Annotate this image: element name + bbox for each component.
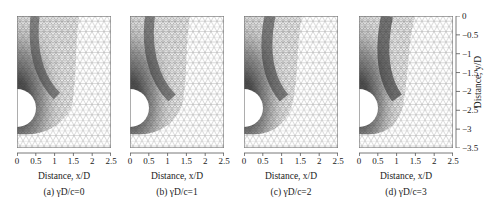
y-tick: −3 [462, 124, 472, 134]
panel-caption: (c) γD/c=2 [271, 187, 312, 197]
y-axis-label: Distance, y/D [473, 56, 483, 108]
x-tick: 2 [203, 156, 208, 166]
x-tick: 0.5 [143, 156, 154, 166]
x-tick: 1.5 [295, 156, 306, 166]
x-tick: 2.5 [218, 156, 229, 166]
panel-a: 0 0.5 1 1.5 2 2.5 Distance, x/D (a) γD/c… [17, 0, 135, 208]
x-tick: 0 [128, 156, 133, 166]
y-tick: 0 [462, 11, 467, 21]
x-tick: 1.5 [410, 156, 421, 166]
x-tick: 2.5 [105, 156, 116, 166]
x-tick: 2 [432, 156, 437, 166]
mesh-plot-d [359, 16, 453, 148]
x-tick: 0 [357, 156, 362, 166]
x-tick: 0.5 [30, 156, 41, 166]
x-axis-label: Distance, x/D [380, 171, 432, 181]
x-tick: 1 [279, 156, 284, 166]
x-tick: 0.5 [257, 156, 268, 166]
x-tick: 1 [52, 156, 57, 166]
x-axis-label: Distance, x/D [38, 171, 90, 181]
x-tick: 1.5 [181, 156, 192, 166]
x-tick: 0 [15, 156, 20, 166]
mesh-plot-b [130, 16, 224, 148]
x-axis-label: Distance, x/D [265, 171, 317, 181]
x-tick: 1 [394, 156, 399, 166]
panel-caption: (a) γD/c=0 [44, 187, 85, 197]
panel-b: 0 0.5 1 1.5 2 2.5 Distance, x/D (b) γD/c… [130, 0, 248, 208]
mesh-plot-a [17, 16, 111, 148]
x-tick: 0 [242, 156, 247, 166]
x-tick: 0.5 [372, 156, 383, 166]
y-tick: −1 [462, 49, 472, 59]
panel-c: 0 0.5 1 1.5 2 2.5 Distance, x/D (c) γD/c… [244, 0, 362, 208]
x-tick: 2 [317, 156, 322, 166]
y-tick: −3.5 [462, 143, 478, 153]
y-axis [454, 16, 462, 148]
x-axis-label: Distance, x/D [151, 171, 203, 181]
panel-caption: (b) γD/c=1 [156, 187, 197, 197]
x-tick: 1 [165, 156, 170, 166]
x-tick: 2.5 [447, 156, 458, 166]
panel-caption: (d) γD/c=3 [385, 187, 426, 197]
y-tick: −0.5 [462, 30, 478, 40]
mesh-plot-c [244, 16, 338, 148]
x-tick: 2.5 [332, 156, 343, 166]
y-tick: −2 [462, 86, 472, 96]
x-tick: 2 [90, 156, 95, 166]
x-tick: 1.5 [68, 156, 79, 166]
